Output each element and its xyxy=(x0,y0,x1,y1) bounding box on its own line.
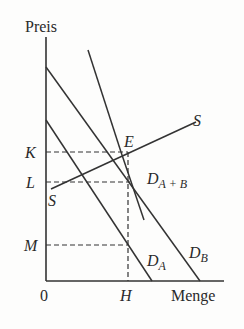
equilibrium-label: E xyxy=(123,133,134,150)
demand-a-line xyxy=(46,120,152,281)
origin-label: 0 xyxy=(40,287,48,304)
supply-label-start: S xyxy=(48,192,56,209)
x-axis-label: Menge xyxy=(171,287,215,305)
supply-label-end: S xyxy=(193,112,201,129)
y-axis-label: Preis xyxy=(25,18,57,35)
supply-demand-diagram: Preis Menge 0 K L M H S S E DA + B DA DB xyxy=(0,0,244,329)
demand-sum-line xyxy=(88,50,121,152)
demand-a-label-main: D xyxy=(146,252,159,269)
demand-sum-label-sub: A + B xyxy=(158,177,188,191)
demand-b-line xyxy=(46,67,200,281)
demand-sum-label: DA + B xyxy=(146,170,188,191)
demand-b-label-main: D xyxy=(188,244,201,261)
demand-b-label-sub: B xyxy=(201,251,209,265)
demand-a-label: DA xyxy=(146,252,167,273)
demand-b-label: DB xyxy=(188,244,209,265)
demand-sum-line-lower xyxy=(121,152,144,220)
demand-sum-label-main: D xyxy=(146,170,159,187)
price-label-k: K xyxy=(24,144,37,161)
curves xyxy=(46,50,200,281)
demand-a-label-sub: A xyxy=(158,259,167,273)
price-label-l: L xyxy=(25,174,35,191)
price-label-m: M xyxy=(23,237,39,254)
quantity-label-h: H xyxy=(119,287,133,304)
